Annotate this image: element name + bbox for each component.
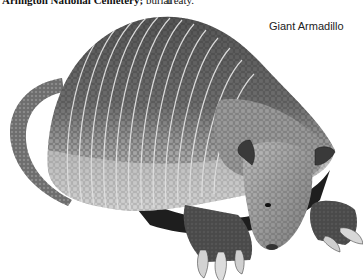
front-foot-right xyxy=(310,201,363,252)
figure-caption: Giant Armadillo xyxy=(269,20,344,32)
front-foot-left xyxy=(184,205,252,280)
right-ear xyxy=(315,147,335,165)
armadillo-illustration xyxy=(0,0,363,280)
